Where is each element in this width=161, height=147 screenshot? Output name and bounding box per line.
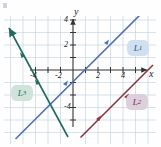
y-tick-label-4: 4 (64, 16, 68, 24)
line-label-L1: L1 (127, 40, 149, 56)
y-tick-label-neg4: -4 (64, 103, 71, 111)
y-tick-label-2: 2 (64, 41, 68, 49)
line-label-L2-sub: 2 (138, 98, 142, 106)
x-tick-label-4: 4 (121, 72, 125, 80)
line-label-L1-sub: 1 (139, 44, 143, 52)
coordinate-plane-svg (0, 0, 161, 147)
x-tick-label-neg2: -2 (55, 72, 62, 80)
line-label-L2: L2 (126, 94, 148, 110)
x-axis-label: x (149, 69, 153, 79)
x-tick-label-neg4: -4 (30, 72, 37, 80)
y-axis-label: y (74, 7, 78, 17)
graph-figure: x y -4 -2 2 4 4 2 -4 L1 L2 L3 (0, 0, 161, 147)
line-label-L3: L3 (11, 85, 33, 101)
x-tick-label-2: 2 (96, 72, 100, 80)
line-label-L3-sub: 3 (23, 89, 27, 97)
